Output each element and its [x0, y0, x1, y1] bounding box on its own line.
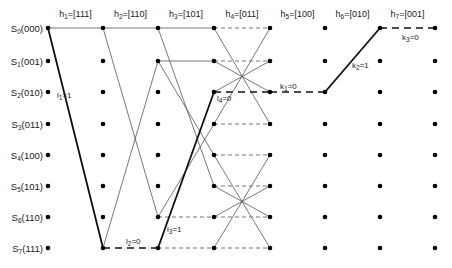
state-node — [323, 184, 328, 189]
stage-label: h7=[001] — [391, 9, 425, 20]
state-label: S3(011) — [12, 119, 43, 131]
state-node — [156, 122, 161, 127]
state-label: S4(100) — [11, 150, 43, 162]
state-node — [212, 59, 217, 64]
state-node — [268, 90, 273, 95]
state-node — [46, 90, 51, 95]
state-node — [101, 184, 106, 189]
stage-labels: h1=[111]h2=[110]h3=[101]h4=[011]h5=[100]… — [59, 9, 424, 20]
state-node — [268, 122, 273, 127]
state-node — [46, 59, 51, 64]
state-node — [156, 184, 161, 189]
state-node — [212, 246, 217, 251]
state-node — [268, 246, 273, 251]
state-node — [378, 215, 383, 220]
state-node — [212, 122, 217, 127]
state-node — [156, 153, 161, 158]
state-node — [46, 26, 51, 31]
state-node — [212, 153, 217, 158]
path-label: l2=0 — [126, 237, 141, 247]
state-node — [212, 184, 217, 189]
trellis-edge — [325, 28, 380, 92]
state-node — [101, 246, 106, 251]
state-node — [46, 246, 51, 251]
nodes-layer — [46, 26, 438, 251]
stage-label: h2=[110] — [114, 9, 147, 20]
trellis-edge — [103, 28, 158, 217]
state-node — [156, 59, 161, 64]
state-node — [433, 153, 438, 158]
state-node — [378, 59, 383, 64]
state-node — [212, 215, 217, 220]
state-node — [378, 184, 383, 189]
state-node — [323, 122, 328, 127]
state-node — [433, 90, 438, 95]
path-label: l1=1 — [57, 91, 72, 101]
state-node — [433, 59, 438, 64]
state-node — [378, 153, 383, 158]
state-node — [101, 153, 106, 158]
state-node — [323, 90, 328, 95]
state-node — [46, 184, 51, 189]
trellis-diagram: S0(000)S1(001)S2(010)S3(011)S4(100)S5(10… — [0, 0, 452, 268]
state-node — [323, 59, 328, 64]
state-label: S0(000) — [11, 23, 43, 35]
path-label: l3=1 — [167, 225, 182, 235]
state-node — [212, 90, 217, 95]
state-labels: S0(000)S1(001)S2(010)S3(011)S4(100)S5(10… — [11, 23, 43, 255]
state-node — [433, 215, 438, 220]
path-label: k1=0 — [280, 82, 297, 92]
state-node — [101, 122, 106, 127]
state-label: S2(010) — [11, 87, 43, 99]
state-node — [46, 122, 51, 127]
state-node — [323, 215, 328, 220]
state-node — [268, 59, 273, 64]
state-node — [433, 122, 438, 127]
trellis-edge — [48, 28, 103, 248]
state-node — [101, 215, 106, 220]
state-node — [156, 26, 161, 31]
state-label: S5(101) — [11, 181, 43, 193]
state-node — [101, 26, 106, 31]
state-node — [323, 26, 328, 31]
state-label: S7(111) — [12, 243, 43, 255]
state-node — [433, 184, 438, 189]
state-node — [433, 26, 438, 31]
stage-label: h6=[010] — [336, 9, 370, 20]
state-node — [378, 26, 383, 31]
path-labels: l1=1l2=0l3=1l4=0k1=0k2=1k3=0 — [57, 33, 419, 247]
state-node — [378, 90, 383, 95]
state-node — [212, 26, 217, 31]
state-node — [156, 90, 161, 95]
path-label: k3=0 — [402, 33, 419, 43]
stage-label: h5=[100] — [281, 9, 315, 20]
path-label: l4=0 — [217, 94, 232, 104]
state-node — [268, 26, 273, 31]
state-label: S1(001) — [11, 56, 43, 68]
path-label: k2=1 — [352, 61, 369, 71]
state-node — [268, 153, 273, 158]
state-node — [268, 215, 273, 220]
state-node — [46, 153, 51, 158]
state-label: S6(110) — [12, 212, 43, 224]
state-node — [156, 215, 161, 220]
state-node — [378, 246, 383, 251]
trellis-edge — [103, 61, 158, 248]
state-node — [268, 184, 273, 189]
state-node — [323, 153, 328, 158]
state-node — [156, 246, 161, 251]
state-node — [433, 246, 438, 251]
state-node — [101, 90, 106, 95]
trellis-edge — [158, 28, 214, 186]
stage-label: h1=[111] — [59, 9, 92, 20]
stage-label: h4=[011] — [225, 9, 258, 20]
state-node — [378, 122, 383, 127]
state-node — [323, 246, 328, 251]
state-node — [101, 59, 106, 64]
stage-label: h3=[101] — [169, 9, 203, 20]
trellis-edge — [158, 61, 214, 155]
edges-layer — [48, 28, 435, 248]
state-node — [46, 215, 51, 220]
